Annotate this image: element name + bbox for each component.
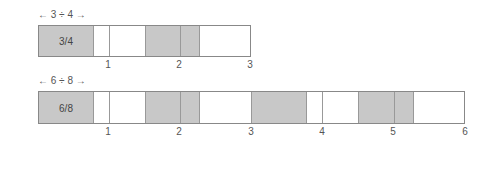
shaded-block: 3/4 — [39, 26, 94, 56]
fraction-label: 3/4 — [59, 36, 73, 47]
tick-label: 2 — [176, 59, 182, 70]
tick-label: 1 — [105, 126, 111, 137]
unit-divider — [180, 92, 181, 123]
number-bar-2: 6/8 — [38, 91, 465, 124]
shaded-block — [145, 92, 200, 123]
unit-divider — [394, 92, 395, 123]
tick-label: 3 — [247, 59, 253, 70]
division-label-1: ← 3 ÷ 4 → — [38, 9, 86, 20]
shaded-block: 6/8 — [39, 92, 94, 123]
fraction-label: 6/8 — [59, 102, 73, 113]
shaded-block — [358, 92, 414, 123]
tick-label: 6 — [462, 126, 468, 137]
tick-label: 3 — [248, 126, 254, 137]
tick-label: 1 — [105, 59, 111, 70]
division-label-2: ← 6 ÷ 8 → — [38, 75, 86, 86]
shaded-block — [251, 92, 307, 123]
number-bar-1: 3/4 — [38, 25, 251, 57]
tick-label: 5 — [390, 126, 396, 137]
tick-label: 2 — [176, 126, 182, 137]
shaded-block — [145, 26, 200, 56]
tick-label: 4 — [319, 126, 325, 137]
unit-divider — [180, 26, 181, 56]
unit-divider — [322, 92, 323, 123]
unit-divider — [109, 92, 110, 123]
unit-divider — [109, 26, 110, 56]
